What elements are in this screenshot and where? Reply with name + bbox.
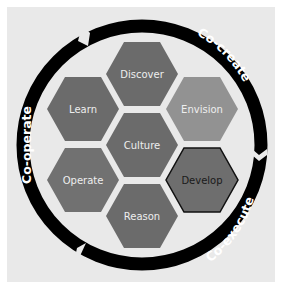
hex-operate: Operate xyxy=(47,148,119,212)
hex-label-develop: Develop xyxy=(181,175,222,186)
ring-label-co-create: Co-create xyxy=(195,25,254,84)
hex-label-envision: Envision xyxy=(181,104,223,115)
hex-label-culture: Culture xyxy=(124,140,160,151)
hex-envision: Envision xyxy=(166,77,238,141)
hex-develop: Develop xyxy=(166,148,238,212)
hex-label-discover: Discover xyxy=(120,69,164,80)
ring-label-co-operate: Co-operate xyxy=(19,106,34,184)
hex-label-operate: Operate xyxy=(63,175,104,186)
hex-culture: Culture xyxy=(106,113,178,177)
hex-label-learn: Learn xyxy=(69,104,97,115)
hex-discover: Discover xyxy=(106,42,178,106)
hex-label-reason: Reason xyxy=(124,211,160,222)
hex-learn: Learn xyxy=(47,77,119,141)
culture-cycle-diagram: Co-create Co-execute Co-operate Discover… xyxy=(0,0,281,287)
hex-reason: Reason xyxy=(106,184,178,248)
